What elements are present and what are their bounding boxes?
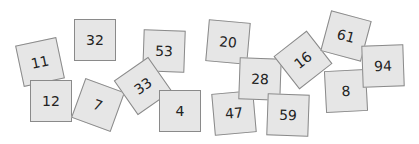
card-label: 61: [335, 26, 356, 46]
card-label: 53: [155, 43, 173, 60]
card-label: 33: [131, 74, 155, 97]
card-label: 47: [224, 104, 243, 121]
card-label: 94: [374, 58, 392, 75]
card-label: 32: [86, 32, 104, 48]
number-card[interactable]: 4: [159, 90, 201, 132]
card-label: 12: [42, 93, 60, 109]
number-card[interactable]: 12: [30, 80, 72, 122]
card-label: 4: [176, 103, 185, 119]
card-label: 20: [218, 33, 237, 50]
card-label: 59: [279, 107, 297, 124]
card-label: 11: [30, 52, 51, 71]
number-card[interactable]: 59: [266, 93, 309, 136]
card-label: 28: [251, 71, 269, 88]
card-label: 8: [341, 83, 351, 99]
card-label: 7: [91, 96, 105, 114]
number-card[interactable]: 32: [74, 19, 116, 61]
card-label: 16: [291, 48, 315, 72]
number-card[interactable]: 94: [361, 44, 404, 87]
